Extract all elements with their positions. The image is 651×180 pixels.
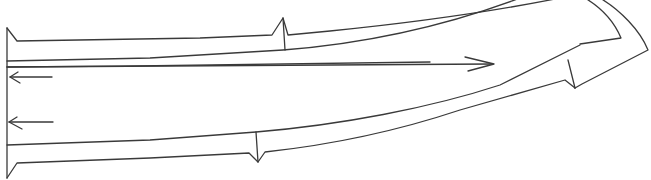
lower-strip-inner-edge	[7, 45, 580, 145]
lower-left-arrow-head	[9, 117, 22, 129]
lower-strip-notch-stem-left	[256, 132, 258, 162]
right-curve-outer	[575, 0, 648, 88]
diagram-canvas	[0, 0, 651, 180]
upper-strip-inner-edge	[7, 0, 520, 61]
right-curve-inner	[580, 0, 621, 44]
